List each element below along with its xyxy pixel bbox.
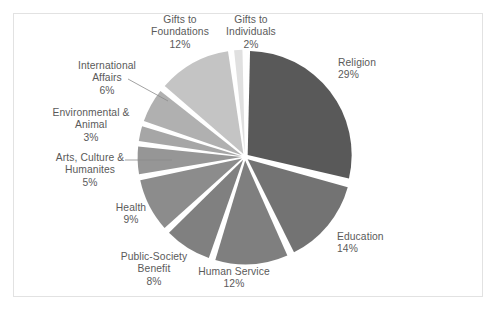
pie-label-international-affairs: International Affairs 6% xyxy=(52,60,162,97)
pie-label-environmental-animal: Environmental & Animal 3% xyxy=(26,107,156,144)
pie-chart: Religion 29% Education 14% Human Service… xyxy=(0,0,498,315)
pie-slices xyxy=(138,50,352,265)
pie-label-arts-culture-humanites: Arts, Culture & Humanites 5% xyxy=(30,152,150,189)
pie-label-health: Health 9% xyxy=(100,202,162,227)
pie-label-gifts-to-individuals: Gifts to Individuals 2% xyxy=(206,14,296,51)
pie-label-public-society-benefit: Public-Society Benefit 8% xyxy=(106,251,202,288)
pie-label-education: Education 14% xyxy=(337,231,417,256)
pie-label-religion: Religion 29% xyxy=(338,57,418,82)
pie-slice-religion xyxy=(248,51,352,179)
